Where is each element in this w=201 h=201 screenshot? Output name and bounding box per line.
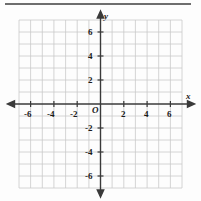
x-tick-label-minus-6: -6 bbox=[24, 110, 32, 119]
coordinate-plane-graphic bbox=[0, 0, 201, 201]
x-tick-label-4: 4 bbox=[144, 110, 149, 119]
x-tick-label-6: 6 bbox=[167, 110, 172, 119]
y-tick-label-6: 6 bbox=[88, 28, 93, 37]
x-tick-label-minus-4: -4 bbox=[47, 110, 55, 119]
y-tick-label-minus-6: -6 bbox=[85, 172, 93, 181]
y-axis-label: y bbox=[104, 12, 108, 21]
y-tick-label-minus-4: -4 bbox=[85, 148, 93, 157]
y-tick-label-2: 2 bbox=[88, 76, 93, 85]
x-tick-label-minus-2: -2 bbox=[70, 110, 78, 119]
figure-canvas: -6 -4 -2 2 4 6 6 4 2 -2 -4 -6 O y x bbox=[0, 0, 201, 201]
y-tick-label-minus-2: -2 bbox=[85, 124, 93, 133]
y-tick-label-4: 4 bbox=[88, 52, 93, 61]
x-tick-label-2: 2 bbox=[121, 110, 126, 119]
x-axis-label: x bbox=[186, 92, 191, 101]
origin-label: O bbox=[92, 106, 99, 115]
